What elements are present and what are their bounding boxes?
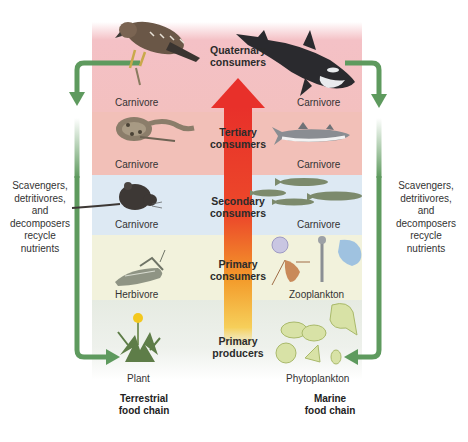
recycle-note-line5: recycle: [0, 230, 80, 243]
terrestrial-label-primary-consumers: Herbivore: [115, 289, 158, 300]
recycle-note-line4: decomposers: [386, 218, 466, 231]
level-secondary-line1: Secondary: [193, 195, 283, 207]
recycle-note-left: Scavengers, detritivores, and decomposer…: [0, 180, 80, 255]
dandelion-icon: [118, 313, 160, 362]
level-primary-consumers: Primary consumers: [193, 258, 283, 282]
level-primary-producers-line1: Primary: [193, 335, 283, 347]
shark-icon: [272, 122, 350, 145]
level-primary-consumers-line1: Primary: [193, 258, 283, 270]
recycle-note-line2: detritivores,: [0, 193, 80, 206]
level-primary-producers-line2: producers: [193, 347, 283, 359]
marine-label-secondary: Carnivore: [297, 219, 340, 230]
food-chain-diagram: Quaternary consumers Tertiary consumers …: [0, 0, 468, 442]
level-quaternary-line1: Quaternary: [193, 44, 283, 56]
marine-chain-title: Marine food chain: [285, 393, 375, 417]
level-secondary: Secondary consumers: [193, 195, 283, 219]
recycle-note-line6: nutrients: [386, 243, 466, 256]
recycle-note-line5: recycle: [386, 230, 466, 243]
level-tertiary-line2: consumers: [193, 138, 283, 150]
terrestrial-title-line2: food chain: [99, 405, 189, 417]
mouse-icon: [72, 182, 162, 210]
marine-title-line2: food chain: [285, 405, 375, 417]
marine-label-producers: Phytoplankton: [286, 373, 349, 384]
phytoplankton-icon: [276, 304, 357, 364]
recycle-note-line2: detritivores,: [386, 193, 466, 206]
zooplankton-icon: [272, 236, 361, 285]
marine-label-quaternary: Carnivore: [297, 97, 340, 108]
terrestrial-label-tertiary: Carnivore: [115, 159, 158, 170]
marine-title-line1: Marine: [285, 393, 375, 405]
level-primary-producers: Primary producers: [193, 335, 283, 359]
recycle-note-line1: Scavengers,: [386, 180, 466, 193]
marine-label-tertiary: Carnivore: [297, 159, 340, 170]
terrestrial-label-quaternary: Carnivore: [115, 97, 158, 108]
recycle-note-line4: decomposers: [0, 218, 80, 231]
terrestrial-label-secondary: Carnivore: [115, 219, 158, 230]
recycle-note-right: Scavengers, detritivores, and decomposer…: [386, 180, 466, 255]
grasshopper-icon: [115, 250, 165, 286]
level-primary-consumers-line2: consumers: [193, 270, 283, 282]
hawk-icon: [115, 15, 200, 85]
level-quaternary: Quaternary consumers: [193, 44, 283, 68]
level-tertiary-line1: Tertiary: [193, 126, 283, 138]
level-tertiary: Tertiary consumers: [193, 126, 283, 150]
snake-icon: [116, 117, 194, 141]
recycle-note-line6: nutrients: [0, 243, 80, 256]
level-quaternary-line2: consumers: [193, 56, 283, 68]
terrestrial-label-producers: Plant: [127, 373, 150, 384]
marine-label-primary-consumers: Zooplankton: [289, 289, 344, 300]
recycle-note-line1: Scavengers,: [0, 180, 80, 193]
level-secondary-line2: consumers: [193, 207, 283, 219]
terrestrial-title-line1: Terrestrial: [99, 393, 189, 405]
terrestrial-chain-title: Terrestrial food chain: [99, 393, 189, 417]
recycle-note-line3: and: [386, 205, 466, 218]
recycle-note-line3: and: [0, 205, 80, 218]
